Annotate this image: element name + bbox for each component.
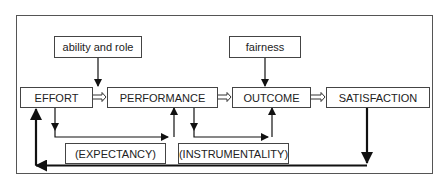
hollow-arrow-effort-performance	[93, 93, 106, 102]
node-label: EFFORT	[35, 92, 79, 104]
node-label: (INSTRUMENTALITY)	[179, 148, 288, 160]
node-label: OUTCOME	[243, 92, 299, 104]
node-label: (EXPECTANCY)	[75, 148, 156, 160]
hollow-arrow-outcome-satisfaction	[311, 93, 325, 102]
node-label: SATISFACTION	[339, 92, 418, 104]
node-satisfaction: SATISFACTION	[326, 87, 430, 108]
node-effort: EFFORT	[20, 87, 93, 108]
node-outcome: OUTCOME	[232, 87, 311, 108]
node-performance: PERFORMANCE	[107, 87, 218, 108]
node-ability-and-role: ability and role	[54, 36, 142, 58]
node-fairness: fairness	[229, 36, 301, 58]
hollow-arrow-performance-outcome	[218, 93, 231, 102]
node-label: ability and role	[63, 41, 134, 53]
arrow-expectancy-loop	[55, 107, 174, 137]
node-instrumentality: (INSTRUMENTALITY)	[178, 143, 289, 164]
node-expectancy: (EXPECTANCY)	[65, 143, 166, 164]
node-label: fairness	[246, 41, 285, 53]
arrow-instrumentality-loop	[194, 107, 272, 137]
node-label: PERFORMANCE	[120, 92, 206, 104]
